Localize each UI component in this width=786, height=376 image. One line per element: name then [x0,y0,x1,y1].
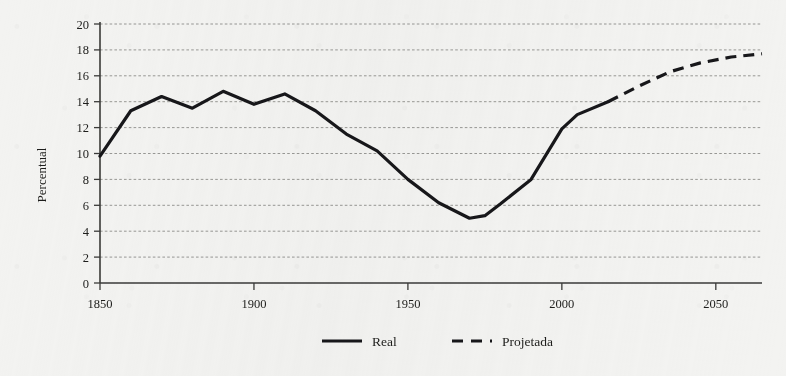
x-tick-label-1900: 1900 [241,297,266,311]
line-chart-figure: 02468101214161820 18501900195020002050 P… [0,0,786,376]
chart-svg: 02468101214161820 18501900195020002050 P… [0,0,786,376]
legend-label-projetada: Projetada [502,334,553,349]
y-tick-label-14: 14 [77,95,90,109]
chart-legend: RealProjetada [322,334,553,349]
x-axis-ticks-group: 18501900195020002050 [88,283,729,311]
x-tick-label-2050: 2050 [703,297,728,311]
x-tick-label-1850: 1850 [88,297,113,311]
series-line-real [100,91,608,218]
legend-label-real: Real [372,334,397,349]
y-tick-label-16: 16 [77,69,90,83]
series-line-projetada [608,54,762,102]
y-axis-title: Percentual [34,147,49,202]
y-tick-label-8: 8 [83,173,89,187]
y-tick-label-0: 0 [83,277,89,291]
y-axis-ticks-group: 02468101214161820 [77,18,101,291]
y-tick-label-6: 6 [83,199,89,213]
x-tick-label-1950: 1950 [395,297,420,311]
y-tick-label-2: 2 [83,251,89,265]
x-tick-label-2000: 2000 [549,297,574,311]
gridlines-group [100,24,762,257]
y-tick-label-20: 20 [77,18,90,32]
y-tick-label-18: 18 [77,43,90,57]
y-tick-label-4: 4 [83,225,90,239]
y-tick-label-10: 10 [77,147,90,161]
y-tick-label-12: 12 [77,121,90,135]
